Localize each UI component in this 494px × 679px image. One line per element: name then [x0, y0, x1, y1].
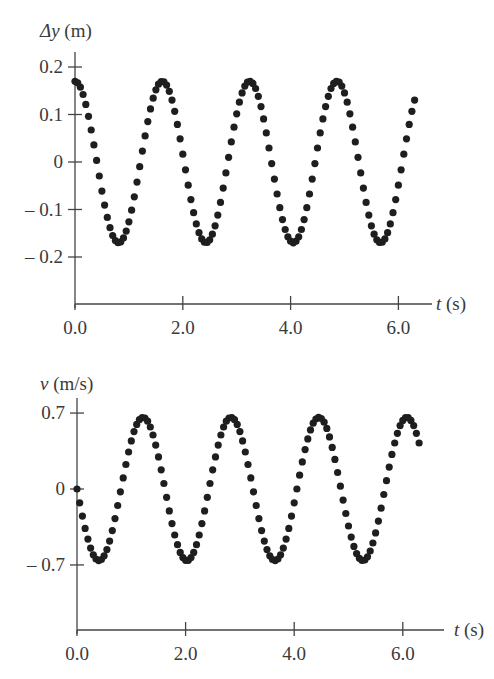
- data-point: [117, 488, 124, 495]
- data-point: [106, 224, 113, 231]
- data-point: [166, 88, 173, 95]
- data-point: [84, 536, 91, 543]
- data-point: [413, 430, 420, 437]
- x-tick-label: 4.0: [282, 643, 306, 664]
- data-point: [314, 144, 321, 151]
- data-point: [163, 494, 170, 501]
- data-point: [234, 421, 241, 428]
- data-point: [182, 166, 189, 173]
- x-tick-label: 4.0: [279, 317, 303, 338]
- data-point: [304, 435, 311, 442]
- data-point: [220, 185, 227, 192]
- data-point: [360, 185, 367, 192]
- data-point: [331, 456, 338, 463]
- data-point: [215, 442, 222, 449]
- top-y-ticks: 0.20.10– 0.1– 0.2: [24, 56, 82, 267]
- data-point: [337, 483, 344, 490]
- velocity-chart: v (m/s) 0.70– 0.7 0.02.04.06.0 t (s): [26, 373, 484, 664]
- x-tick-label: 2.0: [174, 643, 198, 664]
- data-point: [185, 182, 192, 189]
- data-point: [325, 93, 332, 100]
- data-point: [177, 135, 184, 142]
- data-point: [217, 431, 224, 438]
- y-tick-label: 0: [54, 151, 64, 172]
- data-point: [357, 169, 364, 176]
- data-point: [341, 89, 348, 96]
- top-ylabel: Δy (m): [39, 20, 92, 42]
- data-point: [400, 151, 407, 158]
- data-point: [244, 461, 251, 468]
- data-point: [293, 485, 300, 492]
- data-point: [171, 531, 178, 538]
- data-point: [372, 529, 379, 536]
- data-point: [277, 551, 284, 558]
- data-point: [348, 534, 355, 541]
- data-point: [101, 552, 108, 559]
- data-point: [236, 428, 243, 435]
- data-point: [144, 118, 151, 125]
- data-point: [387, 220, 394, 227]
- data-point: [166, 507, 173, 514]
- data-point: [139, 148, 146, 155]
- data-point: [279, 216, 286, 223]
- data-point: [346, 110, 353, 117]
- data-point: [76, 499, 83, 506]
- data-point: [383, 477, 390, 484]
- x-tick-label: 6.0: [391, 643, 415, 664]
- data-point: [109, 527, 116, 534]
- y-tick-label: 0.7: [41, 402, 65, 423]
- top-x-ticks: 0.02.04.06.0: [63, 296, 410, 338]
- data-point: [271, 176, 278, 183]
- data-point: [288, 513, 295, 520]
- data-point: [416, 439, 423, 446]
- data-point: [255, 515, 262, 522]
- data-point: [368, 222, 375, 229]
- top-xlabel: t (s): [436, 293, 466, 315]
- data-point: [282, 226, 289, 233]
- data-point: [268, 160, 275, 167]
- data-point: [394, 430, 401, 437]
- data-point: [111, 515, 118, 522]
- data-point: [160, 480, 167, 487]
- data-point: [73, 485, 80, 492]
- data-point: [150, 95, 157, 102]
- y-tick-label: – 0.2: [24, 246, 63, 267]
- data-point: [311, 160, 318, 167]
- data-point: [128, 207, 135, 214]
- data-point: [217, 199, 224, 206]
- data-point: [326, 433, 333, 440]
- bottom-xlabel: t (s): [454, 619, 484, 641]
- data-point: [122, 461, 129, 468]
- data-point: [307, 426, 314, 433]
- data-point: [209, 466, 216, 473]
- data-point: [190, 209, 197, 216]
- data-point: [354, 154, 361, 161]
- data-point: [155, 453, 162, 460]
- data-point: [367, 547, 374, 554]
- data-point: [212, 453, 219, 460]
- data-point: [120, 234, 127, 241]
- data-point: [147, 105, 154, 112]
- data-point: [319, 115, 326, 122]
- y-tick-label: – 0.7: [26, 554, 65, 575]
- data-point: [253, 502, 260, 509]
- data-point: [142, 132, 149, 139]
- data-point: [225, 154, 232, 161]
- data-point: [295, 233, 302, 240]
- data-point: [195, 229, 202, 236]
- data-point: [82, 525, 89, 532]
- data-point: [352, 138, 359, 145]
- data-point: [114, 502, 121, 509]
- data-point: [392, 196, 399, 203]
- data-point: [283, 536, 290, 543]
- data-point: [408, 108, 415, 115]
- data-point: [389, 209, 396, 216]
- data-point: [395, 182, 402, 189]
- data-point: [168, 520, 175, 527]
- data-point: [209, 231, 216, 238]
- figure: Δy (m) 0.20.10– 0.1– 0.2 0.02.04.06.0 t …: [0, 0, 494, 679]
- data-point: [233, 110, 240, 117]
- y-tick-label: 0.1: [39, 104, 63, 125]
- data-point: [285, 525, 292, 532]
- x-tick-label: 2.0: [171, 317, 195, 338]
